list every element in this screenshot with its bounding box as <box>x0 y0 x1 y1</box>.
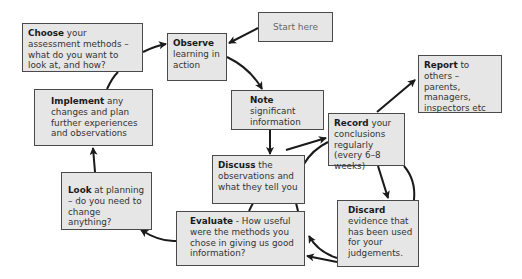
arrow-record-to-discard <box>378 166 388 198</box>
record-box: Record your conclusions regularly (every… <box>328 113 405 166</box>
implement-box: Implement any changes and plan further e… <box>34 89 153 146</box>
note-box: Note significant information <box>231 90 324 130</box>
evaluate-box: Evaluate - How useful were the methods y… <box>176 211 305 266</box>
discard-text: evidence that has been used for your jud… <box>348 216 412 258</box>
discuss-title: Discuss <box>218 160 256 170</box>
discard-title: Discard <box>348 205 385 215</box>
connector-evaluate-discuss-right <box>296 203 298 211</box>
report-box: Report to others – parents, managers, in… <box>418 55 502 113</box>
choose-title: Choose <box>28 28 64 38</box>
implement-title: Implement <box>51 96 104 106</box>
report-title: Report <box>424 60 458 70</box>
arrow-start-to-observe <box>229 28 258 43</box>
arrow-record-to-report <box>377 80 415 112</box>
look-title: Look <box>68 185 92 195</box>
arrow-choose-to-observe <box>143 44 166 52</box>
evaluate-title: Evaluate <box>190 216 233 226</box>
arrow-record-curve-to-discard <box>404 166 414 200</box>
look-box: Look at planning – do you need to change… <box>61 172 152 230</box>
discuss-box: Discuss the observations and what they t… <box>212 155 305 204</box>
choose-box: Choose your assessment methods – what do… <box>22 23 143 72</box>
note-text: significant information <box>250 106 301 127</box>
connector-evaluate-discuss-left <box>249 203 253 211</box>
record-title: Record <box>334 118 369 128</box>
arrow-discuss-to-record <box>286 138 326 150</box>
arrow-look-to-implement <box>93 148 95 172</box>
arrow-discuss-curve-to-record <box>304 142 328 164</box>
note-title: Note <box>250 95 274 105</box>
observe-title: Observe <box>173 38 214 48</box>
connector-implement-to-choose <box>107 72 118 89</box>
arrow-observe-to-note <box>227 57 262 89</box>
start-here-box: Start here <box>258 12 333 42</box>
assessment-cycle-diagram: Start here Choose your assessment method… <box>0 0 522 279</box>
arrow-evaluate-to-look <box>141 230 176 241</box>
observe-box: Observe learning in action <box>167 33 227 81</box>
observe-text: learning in action <box>173 49 220 70</box>
start-here-label: Start here <box>273 22 318 33</box>
discard-box: Discard evidence that has been used for … <box>337 200 419 267</box>
arrow-discard-to-evaluate-1 <box>309 236 337 258</box>
